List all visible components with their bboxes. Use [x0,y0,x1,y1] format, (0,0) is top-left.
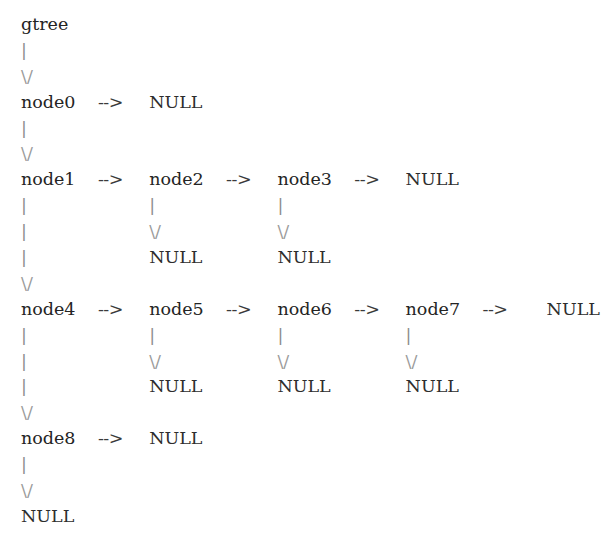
null-terminator-label: NULL [547,297,600,323]
null-terminator-label: NULL [21,504,74,530]
null-terminator-label: NULL [149,245,202,271]
down-arrow-icon: \/ [277,219,289,245]
tree-root-label: gtree [21,12,68,38]
null-terminator-label: NULL [277,374,330,400]
right-arrow-icon: --> [98,167,123,193]
down-arrow-icon: \/ [21,478,33,504]
down-arrow-icon: \/ [21,271,33,297]
vertical-connector-icon: | [21,349,27,375]
right-arrow-icon: --> [98,90,123,116]
down-arrow-icon: \/ [21,141,33,167]
vertical-connector-icon: | [21,374,27,400]
down-arrow-icon: \/ [277,349,289,375]
vertical-connector-icon: | [21,323,27,349]
right-arrow-icon: --> [483,297,508,323]
right-arrow-icon: --> [98,297,123,323]
vertical-connector-icon: | [21,38,27,64]
tree-node-label: node7 [406,297,461,323]
ascii-tree-diagram: gtree|\/node0-->NULL|\/node1-->node2-->n… [0,0,612,541]
down-arrow-icon: \/ [21,64,33,90]
null-terminator-label: NULL [149,374,202,400]
tree-node-label: node1 [21,167,76,193]
tree-node-label: node2 [149,167,204,193]
tree-node-label: node4 [21,297,76,323]
tree-node-label: node6 [277,297,332,323]
down-arrow-icon: \/ [406,349,418,375]
vertical-connector-icon: | [21,245,27,271]
tree-node-label: node5 [149,297,204,323]
null-terminator-label: NULL [277,245,330,271]
tree-node-label: node8 [21,426,76,452]
vertical-connector-icon: | [21,452,27,478]
down-arrow-icon: \/ [149,219,161,245]
vertical-connector-icon: | [21,116,27,142]
right-arrow-icon: --> [354,297,379,323]
vertical-connector-icon: | [406,323,412,349]
down-arrow-icon: \/ [149,349,161,375]
vertical-connector-icon: | [21,219,27,245]
null-terminator-label: NULL [149,426,202,452]
vertical-connector-icon: | [277,323,283,349]
down-arrow-icon: \/ [21,400,33,426]
right-arrow-icon: --> [226,297,251,323]
vertical-connector-icon: | [149,193,155,219]
tree-node-label: node0 [21,90,76,116]
right-arrow-icon: --> [226,167,251,193]
tree-node-label: node3 [277,167,332,193]
right-arrow-icon: --> [98,426,123,452]
null-terminator-label: NULL [406,374,459,400]
null-terminator-label: NULL [149,90,202,116]
vertical-connector-icon: | [277,193,283,219]
right-arrow-icon: --> [354,167,379,193]
vertical-connector-icon: | [21,193,27,219]
vertical-connector-icon: | [149,323,155,349]
null-terminator-label: NULL [406,167,459,193]
